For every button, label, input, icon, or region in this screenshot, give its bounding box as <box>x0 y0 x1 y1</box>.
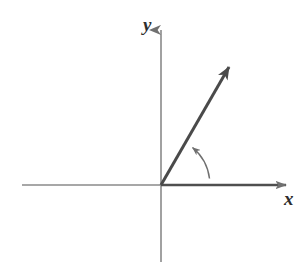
angle-arc <box>193 148 210 179</box>
vector-angle-diagram <box>0 0 308 265</box>
figure-canvas: y x <box>0 0 308 265</box>
x-axis-label: x <box>284 189 294 208</box>
y-axis-label: y <box>143 15 151 34</box>
vector-arrow <box>161 67 229 185</box>
